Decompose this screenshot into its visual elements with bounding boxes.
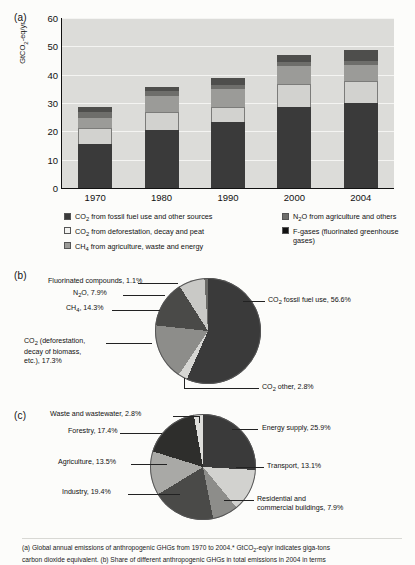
legend-swatch-ch4-icon: [64, 242, 71, 249]
leader-industry: [128, 494, 180, 495]
legend-label-co2-deforestation: CO2 from deforestation, decay and peat: [75, 227, 204, 239]
pie-c-label-residential: Residential andcommercial buildings, 7.9…: [257, 495, 407, 514]
panel-c-letter: (c): [14, 410, 26, 421]
leader-co2-fossil: [243, 301, 265, 302]
legend-item-co2-fossil: CO2 from fossil fuel use and other sourc…: [64, 212, 274, 224]
bar-1990: [211, 78, 245, 188]
pie-b-label-co2-deforestation: CO2 (deforestation, decay of biomass, et…: [24, 337, 106, 367]
bar-2004: [344, 50, 378, 188]
leader-forestry: [120, 433, 162, 434]
y-axis-ticks: 0102030405060: [30, 18, 58, 188]
y-tick-40: 40: [47, 69, 58, 80]
leader-transport: [236, 467, 264, 468]
x-tick-2004: 2004: [331, 192, 391, 203]
x-tick-1970: 1970: [65, 192, 125, 203]
bar-segment-1970-2: [78, 118, 112, 128]
pie-c-label-energy: Energy supply, 25.9%: [262, 424, 330, 433]
y-tick-20: 20: [47, 126, 58, 137]
leader-fluorinated: [138, 283, 178, 284]
legend-column-right: N2O from agriculture and others F-gases …: [282, 212, 412, 248]
legend-label-n2o: N2O from agriculture and others: [293, 212, 396, 224]
y-tick-50: 50: [47, 41, 58, 52]
y-axis-label: GtCO2-eq/yr: [18, 8, 29, 78]
bar-segment-1990-1: [211, 107, 245, 122]
pie-b-label-n2o: N2O, 7.9%: [73, 289, 107, 300]
bar-segment-2000-4: [277, 55, 311, 62]
bar-segment-1990-4: [211, 78, 245, 86]
gridline-60: [62, 18, 394, 19]
panel-b-pie-chart: (b) Fluorinated compounds, 1.1% N2O, 7.9…: [0, 262, 415, 402]
legend-item-n2o: N2O from agriculture and others: [282, 212, 412, 224]
legend-item-ch4: CH4 from agriculture, waste and energy: [64, 242, 274, 254]
legend-label-co2-fossil: CO2 from fossil fuel use and other sourc…: [75, 212, 212, 224]
legend-swatch-n2o-icon: [282, 213, 289, 220]
bar-segment-2004-0: [344, 103, 378, 188]
legend-label-ch4: CH4 from agriculture, waste and energy: [75, 242, 203, 254]
panel-a-bar-chart: (a) GtCO2-eq/yr 0102030405060 1970198019…: [0, 0, 415, 262]
pie-c-label-transport: Transport, 13.1%: [267, 462, 321, 471]
legend-swatch-co2-fossil-icon: [64, 213, 71, 220]
bar-segment-2000-1: [277, 84, 311, 107]
pie-b-graphic: [155, 278, 261, 384]
leader-agriculture: [131, 464, 167, 465]
y-tick-60: 60: [47, 13, 58, 24]
legend-column-left: CO2 from fossil fuel use and other sourc…: [64, 212, 274, 257]
y-tick-10: 10: [47, 154, 58, 165]
leader-waste-stem: [199, 416, 200, 423]
bar-segment-1980-0: [145, 130, 179, 188]
leader-ch4: [112, 310, 160, 311]
pie-b-label-fluorinated: Fluorinated compounds, 1.1%: [48, 277, 142, 286]
bar-segment-2004-4: [344, 50, 378, 61]
figure-page: (a) GtCO2-eq/yr 0102030405060 1970198019…: [0, 0, 415, 565]
bar-segment-2004-2: [344, 65, 378, 81]
legend-swatch-co2-deforestation-icon: [64, 227, 71, 234]
legend-label-fgases: F-gases (fluorinated greenhousegases): [293, 227, 398, 245]
plot-area: [62, 18, 394, 188]
pie-c-label-forestry: Forestry, 17.4%: [68, 427, 118, 436]
bar-segment-1990-2: [211, 89, 245, 107]
leader-energy: [232, 429, 258, 430]
y-tick-30: 30: [47, 98, 58, 109]
leader-n2o: [123, 295, 165, 296]
bar-1980: [145, 87, 179, 188]
leader-co2-other: [184, 388, 259, 389]
leader-residential: [224, 500, 254, 501]
pie-c-label-waste: Waste and wastewater, 2.8%: [50, 410, 141, 419]
pie-c-label-industry: Industry, 19.4%: [62, 488, 111, 497]
bar-segment-1990-0: [211, 122, 245, 188]
bar-segment-2004-1: [344, 81, 378, 103]
bar-segment-1980-1: [145, 112, 179, 130]
bar-segment-1970-1: [78, 128, 112, 144]
bar-1970: [78, 107, 112, 188]
y-tick-0: 0: [53, 183, 58, 194]
x-tick-2000: 2000: [264, 192, 324, 203]
x-tick-1980: 1980: [132, 192, 192, 203]
pie-b-label-co2-other: CO2 other, 2.8%: [262, 383, 314, 394]
bar-2000: [277, 55, 311, 188]
bar-segment-2000-0: [277, 107, 311, 188]
figure-caption: (a) Global annual emissions of anthropog…: [22, 538, 402, 565]
legend-item-co2-deforestation: CO2 from deforestation, decay and peat: [64, 227, 274, 239]
leader-co2-deforestation: [106, 343, 152, 344]
panel-b-letter: (b): [14, 270, 27, 281]
x-tick-1990: 1990: [198, 192, 258, 203]
legend-swatch-fgases-icon: [282, 227, 289, 234]
leader-co2-other-stem: [184, 378, 185, 389]
bar-segment-1970-0: [78, 144, 112, 188]
pie-b-label-ch4: CH4, 14.3%: [66, 304, 103, 315]
legend-item-fgases: F-gases (fluorinated greenhousegases): [282, 227, 412, 245]
panel-c-pie-chart: (c) Waste and wastewater, 2.8% Forestry,…: [0, 402, 415, 530]
bar-segment-1980-2: [145, 96, 179, 112]
y-axis-line: [61, 18, 62, 189]
pie-b-label-co2-fossil: CO2 fossil fuel use, 56.6%: [268, 296, 351, 307]
pie-c-label-agriculture: Agriculture, 13.5%: [58, 458, 116, 467]
gridline-50: [62, 46, 394, 47]
x-axis-line: [61, 188, 394, 189]
leader-waste: [173, 416, 199, 417]
bar-segment-2000-2: [277, 66, 311, 84]
